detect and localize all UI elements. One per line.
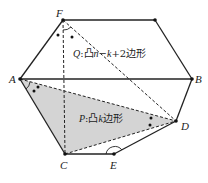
edge-top-b	[155, 20, 192, 79]
region-p-label: P:凸k边形	[78, 113, 123, 124]
angle-arc-f	[63, 27, 71, 30]
region-q-label: Q:凸n−k+2边形	[73, 48, 146, 59]
label-b: B	[195, 73, 202, 85]
vertex-a	[18, 77, 22, 81]
polygon-diagram: F A B D C E Q:凸n−k+2边形 P:凸k边形	[0, 0, 208, 183]
vertex-top-right	[153, 18, 157, 22]
vertex-e	[112, 152, 116, 156]
label-a: A	[8, 73, 16, 85]
label-e: E	[109, 159, 117, 171]
edge-b-d	[176, 79, 192, 121]
edge-a-f	[20, 20, 63, 79]
vertex-b	[190, 77, 194, 81]
vertex-d	[174, 119, 178, 123]
vertex-c	[63, 152, 67, 156]
label-f: F	[55, 7, 63, 19]
label-c: C	[60, 159, 68, 171]
label-d: D	[180, 120, 189, 132]
